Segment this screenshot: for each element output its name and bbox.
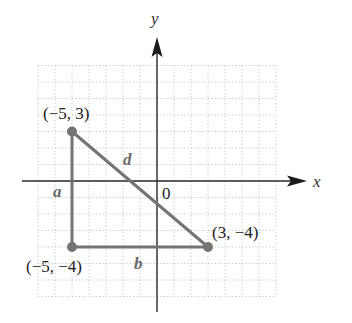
segment-label-a: a	[53, 182, 62, 201]
vertex-point-a	[67, 127, 77, 137]
point-label-a: (−5, 3)	[43, 104, 89, 123]
point-label-b: (−5, −4)	[26, 257, 82, 276]
vertex-point-c	[203, 242, 213, 252]
x-axis-label: x	[312, 172, 321, 191]
origin-label: 0	[162, 184, 171, 203]
coordinate-plane-diagram: y x 0 (−5, 3) (−5, −4) (3, −4) d a b	[0, 0, 352, 323]
vertex-point-b	[67, 242, 77, 252]
segment-label-d: d	[123, 150, 132, 169]
y-axis-label: y	[149, 9, 159, 28]
point-label-c: (3, −4)	[212, 223, 258, 242]
segment-label-b: b	[134, 254, 143, 273]
